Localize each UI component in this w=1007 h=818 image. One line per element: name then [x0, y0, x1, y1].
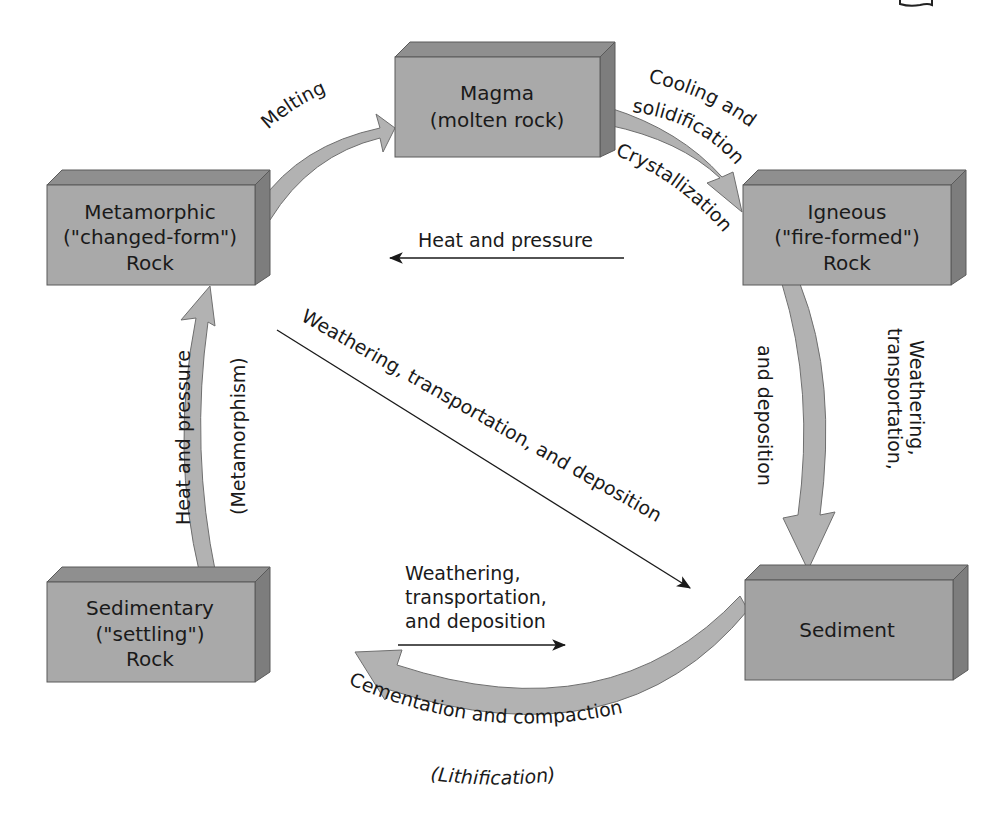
weathering-bottom-line2: transportation,: [405, 586, 547, 608]
metamorphism-label: (Metamorphism): [227, 357, 249, 515]
sedimentary-label-line2: ("settling"): [96, 622, 205, 646]
sedimentary-box: Sedimentary ("settling") Rock: [47, 567, 270, 682]
diagonal-weathering-arrow: [277, 330, 690, 588]
weathering-bottom-line3: and deposition: [405, 610, 546, 632]
book-icon: [900, 0, 932, 6]
metamorphic-label-line3: Rock: [126, 251, 174, 275]
sediment-box: Sediment: [745, 565, 968, 680]
weathering-bottom-line1: Weathering,: [405, 562, 520, 584]
heat-pressure-left-label: Heat and pressure: [172, 350, 194, 525]
melting-arrow: [260, 114, 395, 220]
sediment-label: Sediment: [799, 618, 895, 642]
igneous-box: Igneous ("fire-formed") Rock: [743, 170, 966, 285]
igneous-label-line2: ("fire-formed"): [774, 225, 920, 249]
igneous-label-line1: Igneous: [808, 200, 887, 224]
metamorphic-box: Metamorphic ("changed-form") Rock: [47, 170, 270, 285]
metamorphic-label-line2: ("changed-form"): [63, 225, 237, 249]
melting-label: Melting: [256, 76, 328, 133]
diagonal-weathering-label: Weathering, transportation, and depositi…: [298, 304, 666, 526]
igneous-label-line3: Rock: [823, 251, 871, 275]
magma-label-line2: (molten rock): [430, 108, 565, 132]
weathering-right-line1: Weathering,: [906, 340, 928, 455]
sedimentary-label-line1: Sedimentary: [86, 596, 214, 620]
weathering-right-arrow: [782, 284, 835, 570]
rock-cycle-diagram: Magma (molten rock) Metamorphic ("change…: [0, 0, 1007, 818]
magma-box: Magma (molten rock): [395, 42, 615, 157]
weathering-right-line2: transportation,: [884, 328, 906, 470]
lithification-label: (Lithification): [430, 762, 557, 788]
magma-label-line1: Magma: [460, 81, 534, 105]
heat-pressure-top-label: Heat and pressure: [418, 229, 593, 251]
metamorphic-label-line1: Metamorphic: [84, 200, 216, 224]
sedimentary-label-line3: Rock: [126, 647, 174, 671]
weathering-right-line3: and deposition: [754, 345, 776, 486]
